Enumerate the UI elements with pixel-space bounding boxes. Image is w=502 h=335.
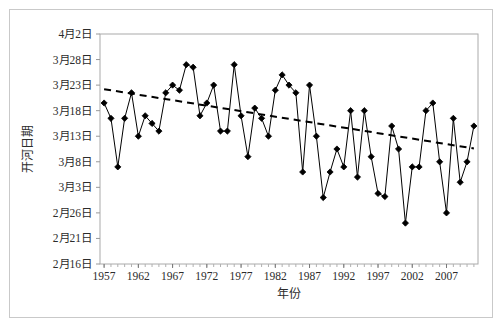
data-point-marker <box>416 164 422 170</box>
y-axis-tick-label: 3月23日 <box>53 79 92 91</box>
data-point-marker <box>320 194 326 200</box>
data-point-marker <box>122 115 128 121</box>
data-point-marker <box>443 210 449 216</box>
data-point-marker <box>437 159 443 165</box>
y-axis-tick-label: 3月18日 <box>53 105 92 117</box>
data-point-marker <box>135 133 141 139</box>
y-axis-title: 开河日期 <box>21 125 35 173</box>
x-axis-tick-label: 1972 <box>195 270 218 282</box>
data-point-marker <box>252 105 258 111</box>
data-point-marker <box>457 179 463 185</box>
data-point-marker <box>279 72 285 78</box>
data-point-marker <box>265 133 271 139</box>
y-axis-tick-label: 3月28日 <box>53 54 92 66</box>
x-axis-tick-label: 1957 <box>93 270 116 282</box>
data-point-marker <box>471 123 477 129</box>
chart-plot: 4月2日3月28日3月23日3月18日3月13日3月8日3月3日2月26日2月2… <box>0 0 502 335</box>
data-point-marker <box>361 108 367 114</box>
data-point-marker <box>402 220 408 226</box>
data-point-marker <box>375 190 381 196</box>
data-point-marker <box>450 115 456 121</box>
data-point-marker <box>327 169 333 175</box>
data-point-marker <box>217 128 223 134</box>
y-axis-tick-label: 2月16日 <box>53 258 92 270</box>
data-point-marker <box>101 100 107 106</box>
x-axis-tick-label: 1967 <box>161 270 184 282</box>
data-point-marker <box>334 146 340 152</box>
data-point-marker <box>368 154 374 160</box>
data-point-marker <box>245 154 251 160</box>
data-point-marker <box>259 115 265 121</box>
data-point-marker <box>409 164 415 170</box>
data-point-marker <box>238 113 244 119</box>
x-axis-tick-label: 1992 <box>332 270 355 282</box>
data-point-marker <box>348 108 354 114</box>
data-point-marker <box>190 64 196 70</box>
x-axis-tick-label: 1982 <box>264 270 287 282</box>
y-axis-tick-label: 2月26日 <box>53 207 92 219</box>
data-point-marker <box>231 62 237 68</box>
y-axis-tick-label: 2月21日 <box>53 232 92 244</box>
x-axis-tick-label: 1962 <box>127 270 150 282</box>
x-axis-tick-label: 2002 <box>401 270 424 282</box>
data-point-marker <box>313 133 319 139</box>
y-axis-tick-label: 3月13日 <box>53 130 92 142</box>
x-axis-title: 年份 <box>277 287 301 301</box>
data-point-marker <box>108 115 114 121</box>
data-point-markers <box>101 62 477 227</box>
data-point-marker <box>464 159 470 165</box>
data-point-marker <box>300 169 306 175</box>
y-axis-tick-label: 3月8日 <box>59 156 93 168</box>
x-axis-tick-label: 2007 <box>435 270 458 282</box>
data-point-marker <box>306 82 312 88</box>
data-point-marker <box>395 146 401 152</box>
data-point-marker <box>183 62 189 68</box>
x-axis-tick-label: 1997 <box>367 270 390 282</box>
chart-svg: 4月2日3月28日3月23日3月18日3月13日3月8日3月3日2月26日2月2… <box>0 0 502 335</box>
data-point-marker <box>115 164 121 170</box>
x-axis-tick-label: 1977 <box>230 270 253 282</box>
data-point-marker <box>341 164 347 170</box>
y-axis-tick-label: 3月3日 <box>59 181 93 193</box>
data-point-marker <box>389 123 395 129</box>
data-point-marker <box>197 113 203 119</box>
data-point-marker <box>224 128 230 134</box>
data-point-marker <box>272 87 278 93</box>
x-axis-tick-label: 1987 <box>298 270 321 282</box>
figure-container: 4月2日3月28日3月23日3月18日3月13日3月8日3月3日2月26日2月2… <box>0 0 502 335</box>
data-point-marker <box>382 193 388 199</box>
trend-line <box>104 89 474 148</box>
y-axis-tick-label: 4月2日 <box>59 28 93 40</box>
data-point-marker <box>354 174 360 180</box>
data-point-marker <box>211 82 217 88</box>
